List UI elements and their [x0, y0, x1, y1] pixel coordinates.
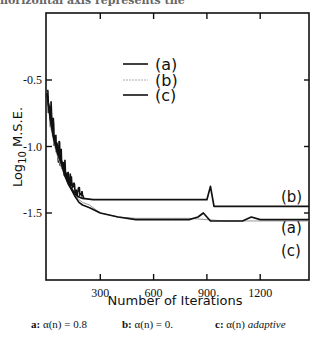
y-axis-title-sub: 10 [17, 151, 28, 164]
legend: (a) (b) (c) [123, 55, 178, 105]
y-tick-label: -1.5 [23, 206, 42, 220]
caption-c-label: c: [215, 318, 224, 330]
y-axis-title-rest: M.S.E. [10, 107, 25, 151]
caption-c: c: α(n) adaptive [215, 318, 286, 330]
plot-frame [46, 13, 309, 280]
caption-b-label: b: [122, 318, 132, 330]
series-line-c [47, 93, 309, 206]
series-line-b [47, 93, 309, 221]
caption-a-expr: α(n) = 0.8 [43, 318, 87, 330]
y-axis-title-log: Log [10, 164, 25, 187]
curve-label-b: (b) [281, 188, 302, 206]
x-tick-label: 1200 [248, 286, 272, 300]
legend-label-c: (c) [155, 86, 176, 105]
line-chart: 3006009001200 -0.5-1.0-1.5 (a) (b) (c) (… [0, 0, 316, 341]
caption-c-expr: α(n) [226, 318, 245, 330]
caption-a-label: a: [31, 318, 40, 330]
caption-b-expr: α(n) = 0. [135, 318, 174, 330]
series-noise [47, 90, 84, 199]
caption-b: b: α(n) = 0. [122, 318, 173, 330]
x-axis-title: Number of Iterations [108, 293, 243, 308]
caption-a: a: α(n) = 0.8 [31, 318, 87, 330]
curve-label-c: (c) [281, 242, 301, 260]
curve-label-a: (a) [281, 219, 302, 237]
series-group [47, 90, 309, 221]
series-line-a [47, 93, 309, 221]
y-tick-label: -0.5 [23, 73, 42, 87]
caption-c-note: adaptive [248, 318, 286, 330]
x-axis-ticks: 3006009001200 [91, 13, 272, 300]
